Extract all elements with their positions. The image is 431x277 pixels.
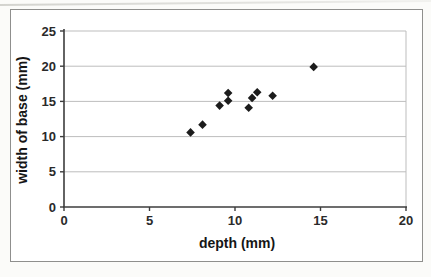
y-tick-label-25: 25 (42, 24, 56, 39)
x-tick-label-20: 20 (399, 213, 413, 228)
data-point (224, 96, 233, 105)
y-tick-label-0: 0 (49, 200, 56, 215)
x-tick-label-0: 0 (60, 213, 67, 228)
data-point (268, 91, 277, 100)
y-tick-label-20: 20 (42, 59, 56, 74)
x-tick-label-5: 5 (146, 213, 153, 228)
data-point (186, 128, 195, 137)
data-point (198, 120, 207, 129)
data-point (215, 101, 224, 110)
x-tick-label-10: 10 (228, 213, 242, 228)
data-point (244, 103, 253, 112)
y-tick-label-10: 10 (42, 129, 56, 144)
x-axis-title: depth (mm) (199, 235, 275, 251)
scanned-chart-page: 051015202505101520 depth (mm) width of b… (0, 0, 431, 277)
data-point (248, 94, 257, 103)
y-tick-label-15: 15 (42, 94, 56, 109)
data-point (253, 88, 262, 97)
y-tick-label-5: 5 (49, 164, 56, 179)
data-point (224, 89, 233, 98)
y-axis-title: width of base (mm) (14, 56, 30, 184)
x-tick-label-15: 15 (313, 213, 327, 228)
data-point (309, 63, 318, 72)
